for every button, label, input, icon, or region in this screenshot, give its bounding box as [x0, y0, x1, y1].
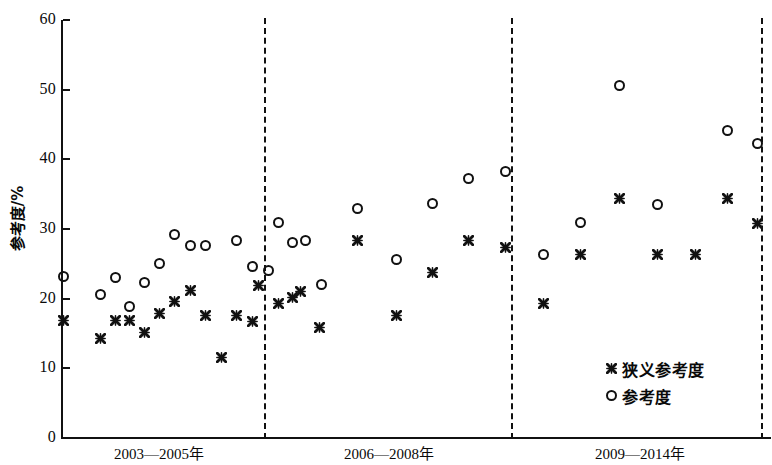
data-point: [216, 352, 227, 363]
x-axis-period-label: 2006—2008年: [344, 446, 434, 462]
data-point: [58, 315, 69, 326]
data-point: [231, 310, 242, 321]
data-point: [139, 327, 150, 338]
data-point: [169, 296, 180, 307]
group-separator-line: [511, 18, 513, 439]
y-axis-tick-label: 50: [16, 81, 56, 97]
chart-legend: 狭义参考度参考度: [602, 355, 752, 409]
data-point: [575, 217, 586, 228]
data-point: [575, 249, 586, 260]
y-axis-tick: [63, 89, 70, 91]
y-axis-tick: [63, 158, 70, 160]
y-axis-tick-label: 0: [16, 429, 56, 445]
y-axis-tick: [63, 228, 70, 230]
data-point: [722, 193, 733, 204]
data-point: [247, 261, 258, 272]
data-point: [95, 289, 106, 300]
data-point: [538, 249, 549, 260]
data-point: [300, 235, 311, 246]
data-point: [352, 235, 363, 246]
data-point: [139, 277, 150, 288]
data-point: [247, 316, 258, 327]
data-point: [690, 249, 701, 260]
data-point: [427, 198, 438, 209]
circle-marker-icon: [606, 390, 617, 401]
y-axis-tick-label: 60: [16, 11, 56, 27]
data-point: [391, 310, 402, 321]
data-point: [154, 308, 165, 319]
data-point: [273, 217, 284, 228]
data-point: [58, 271, 69, 282]
data-point: [185, 285, 196, 296]
data-point: [614, 193, 625, 204]
cross-marker-icon: [606, 363, 617, 374]
legend-item: 狭义参考度: [602, 355, 752, 382]
data-point: [287, 237, 298, 248]
y-axis-tick-label: 40: [16, 150, 56, 166]
data-point: [500, 242, 511, 253]
legend-label: 狭义参考度: [622, 357, 705, 381]
y-axis-tick-label: 30: [16, 220, 56, 236]
data-point: [500, 166, 511, 177]
x-axis-period-label: 2009—2014年: [595, 446, 685, 462]
y-axis-tick: [63, 298, 70, 300]
data-point: [95, 333, 106, 344]
data-point: [169, 229, 180, 240]
y-axis-tick: [63, 367, 70, 369]
x-axis-line: [61, 437, 771, 439]
data-point: [200, 240, 211, 251]
group-separator-line: [264, 18, 266, 439]
data-point: [352, 203, 363, 214]
y-axis-tick: [63, 437, 70, 439]
data-point: [316, 279, 327, 290]
data-point: [185, 240, 196, 251]
data-point: [124, 301, 135, 312]
x-axis-period-label: 2003—2005年: [114, 446, 204, 462]
data-point: [538, 298, 549, 309]
data-point: [722, 125, 733, 136]
data-point: [295, 286, 306, 297]
group-separator-line: [761, 18, 763, 439]
data-point: [110, 315, 121, 326]
data-point: [314, 322, 325, 333]
data-point: [231, 235, 242, 246]
data-point: [124, 315, 135, 326]
scatter-chart: 参考度/% 0102030405060 2003—2005年2006—2008年…: [0, 0, 772, 465]
plot-area: 参考度/% 0102030405060 2003—2005年2006—2008年…: [0, 0, 772, 465]
legend-label: 参考度: [622, 384, 672, 408]
data-point: [614, 80, 625, 91]
data-point: [463, 173, 474, 184]
data-point: [273, 298, 284, 309]
legend-marker: [602, 362, 622, 376]
data-point: [253, 280, 264, 291]
legend-item: 参考度: [602, 382, 752, 409]
data-point: [463, 235, 474, 246]
y-axis-title: 参考度/%: [6, 159, 27, 279]
data-point: [652, 199, 663, 210]
y-axis-tick: [63, 19, 70, 21]
data-point: [652, 249, 663, 260]
data-point: [391, 254, 402, 265]
y-axis-tick-label: 20: [16, 290, 56, 306]
data-point: [200, 310, 211, 321]
data-point: [110, 272, 121, 283]
data-point: [287, 292, 298, 303]
legend-marker: [602, 389, 622, 403]
y-axis-tick-label: 10: [16, 359, 56, 375]
data-point: [154, 258, 165, 269]
data-point: [427, 267, 438, 278]
